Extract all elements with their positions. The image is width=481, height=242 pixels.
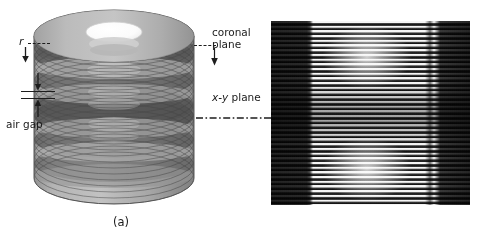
coronal-plane-leader-line — [194, 45, 216, 46]
mri-coronal-image — [271, 21, 470, 205]
panel-a-schematic: r air gap coronal plane — [0, 0, 258, 242]
xy-plane-label-word: plane — [228, 91, 260, 103]
figure-root: r air gap coronal plane — [0, 0, 481, 242]
air-gap-label: air gap — [6, 119, 43, 131]
panel-a-caption: (a) — [113, 215, 129, 229]
air-gap-dimension-indicator — [17, 73, 59, 117]
xy-plane-label: x-y plane — [212, 92, 261, 104]
mri-noise-texture — [271, 21, 470, 205]
xy-plane-label-axes: x-y — [212, 91, 228, 103]
radius-down-arrow-icon — [21, 47, 30, 63]
coronal-plane-label-line1: coronal — [212, 26, 251, 38]
coronal-plane-down-arrow-icon — [210, 48, 219, 66]
panel-b-mri-image: (b) — [258, 0, 481, 242]
radius-leader-line — [28, 43, 50, 44]
coronal-plane-label: coronal plane — [212, 26, 251, 50]
